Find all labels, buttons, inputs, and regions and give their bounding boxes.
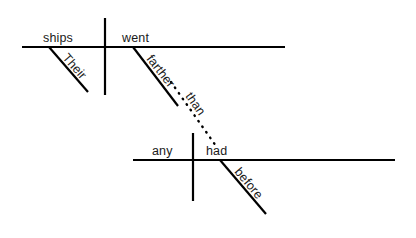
sentence-diagram-canvas: ships went Their farther than any had be…: [0, 0, 416, 238]
word-label-before: before: [232, 165, 266, 202]
word-label-any: any: [152, 144, 173, 158]
word-label-had: had: [206, 144, 227, 158]
word-label-ships: ships: [43, 31, 73, 45]
diagram-svg: ships went Their farther than any had be…: [0, 0, 416, 238]
word-label-went: went: [121, 31, 149, 45]
